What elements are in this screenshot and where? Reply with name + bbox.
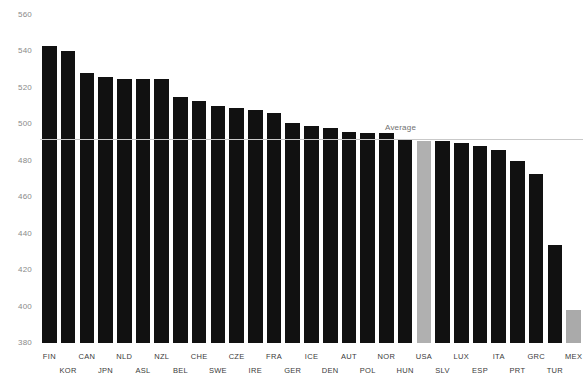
x-axis-tick-label: NOR — [378, 352, 396, 361]
y-axis-tick-label: 560 — [18, 11, 32, 19]
bar-pol — [360, 133, 375, 343]
y-axis-tick-label: 440 — [18, 230, 32, 238]
x-axis-tick-label: CHE — [191, 352, 208, 361]
x-axis-tick-label: SLV — [435, 366, 450, 375]
bar-esp — [473, 146, 488, 343]
bar-nor — [379, 133, 394, 343]
bar-nld — [117, 79, 132, 343]
x-axis-tick-label: KOR — [60, 366, 77, 375]
x-axis: FINKORCANJPNNLDASLNZLBELCHESWECZEIREFRAG… — [40, 347, 583, 392]
bar-fra — [267, 113, 282, 343]
y-axis-tick-label: 460 — [18, 193, 32, 201]
x-axis-tick-label: PRT — [510, 366, 526, 375]
bar-chart: 380400420440460480500520540560 Average F… — [0, 0, 583, 392]
bar-mex — [566, 310, 581, 343]
x-axis-tick-label: GER — [284, 366, 301, 375]
x-axis-tick-label: BEL — [173, 366, 188, 375]
x-axis-tick-label: NZL — [154, 352, 169, 361]
x-axis-tick-label: HUN — [397, 366, 414, 375]
bar-can — [80, 73, 95, 343]
x-axis-tick-label: ICE — [305, 352, 318, 361]
x-axis-tick-label: POL — [360, 366, 376, 375]
x-axis-tick-label: JPN — [98, 366, 113, 375]
x-axis-tick-label: GRC — [527, 352, 545, 361]
bar-slv — [435, 141, 450, 343]
y-axis-tick-label: 520 — [18, 84, 32, 92]
bar-cze — [229, 108, 244, 343]
plot-area: Average — [40, 0, 583, 347]
y-axis-tick-label: 480 — [18, 157, 32, 165]
bar-nzl — [154, 79, 169, 343]
bar-swe — [211, 106, 226, 343]
average-reference-line — [40, 139, 583, 140]
bar-prt — [510, 161, 525, 343]
x-axis-tick-label: FRA — [266, 352, 282, 361]
x-axis-tick-label: AUT — [341, 352, 357, 361]
x-axis-tick-label: TUR — [547, 366, 563, 375]
average-line-label: Average — [385, 123, 416, 132]
bar-usa — [417, 141, 432, 343]
x-axis-tick-label: FIN — [43, 352, 56, 361]
y-axis-tick-label: 540 — [18, 47, 32, 55]
x-axis-tick-label: CZE — [229, 352, 245, 361]
y-axis-tick-label: 380 — [18, 339, 32, 347]
bar-asl — [136, 79, 151, 343]
bar-ire — [248, 110, 263, 343]
y-axis-tick-label: 420 — [18, 266, 32, 274]
bar-bel — [173, 97, 188, 343]
bar-ita — [491, 150, 506, 343]
x-axis-tick-label: LUX — [454, 352, 470, 361]
bar-hun — [398, 139, 413, 343]
x-axis-tick-label: ESP — [472, 366, 488, 375]
bar-aut — [342, 132, 357, 343]
x-axis-tick-label: ITA — [493, 352, 505, 361]
bar-jpn — [98, 77, 113, 343]
bar-tur — [548, 245, 563, 343]
y-axis-tick-label: 400 — [18, 303, 32, 311]
bar-ice — [304, 126, 319, 343]
y-axis-tick-label: 500 — [18, 120, 32, 128]
x-axis-tick-label: CAN — [78, 352, 95, 361]
x-axis-tick-label: USA — [416, 352, 432, 361]
bar-ger — [285, 123, 300, 343]
bar-fin — [42, 46, 57, 343]
x-axis-tick-label: NLD — [116, 352, 132, 361]
x-axis-tick-label: DEN — [322, 366, 339, 375]
x-axis-tick-label: MEX — [565, 352, 582, 361]
bars-layer — [40, 0, 583, 347]
x-axis-tick-label: ASL — [135, 366, 150, 375]
x-axis-tick-label: IRE — [249, 366, 262, 375]
bar-grc — [529, 174, 544, 343]
bar-kor — [61, 51, 76, 343]
y-axis: 380400420440460480500520540560 — [0, 0, 40, 392]
bar-den — [323, 128, 338, 343]
bar-lux — [454, 143, 469, 343]
x-axis-tick-label: SWE — [209, 366, 227, 375]
bar-che — [192, 101, 207, 343]
